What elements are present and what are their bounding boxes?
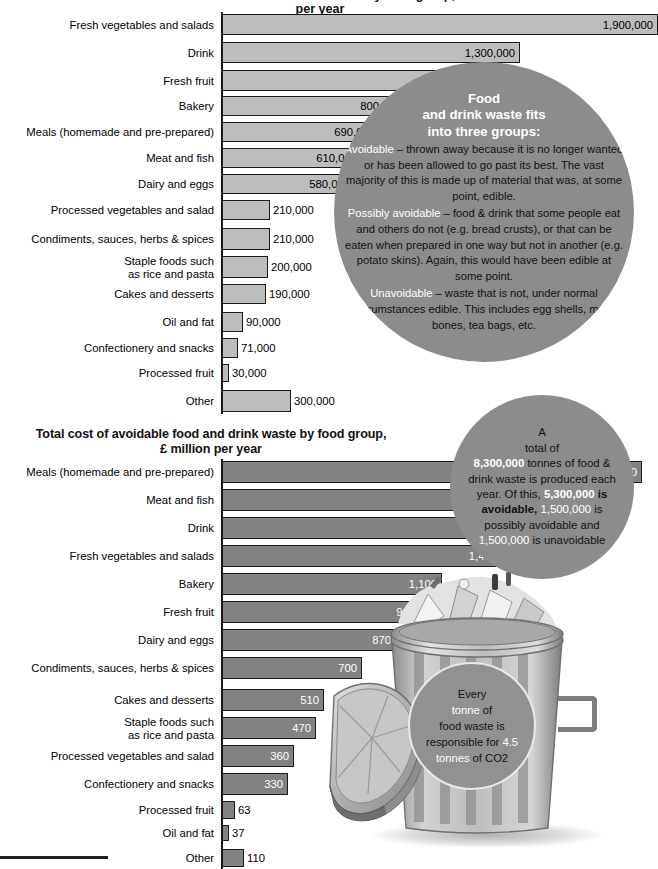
bar-value-label: 63: [238, 804, 251, 816]
bar-value-label: 210,000: [273, 204, 314, 216]
co2-tonnes-line: tonnes of CO2: [426, 750, 518, 766]
category-label: Processed vegetables and salad: [51, 204, 214, 216]
bar-value-label: 470: [292, 722, 311, 734]
category-label: Drink: [188, 47, 214, 59]
category-label: Meat and fish: [146, 152, 214, 164]
category-label: Fresh fruit: [163, 75, 214, 87]
total-body: 8,300,000 tonnes of food & drink waste i…: [460, 456, 624, 548]
co2-value: 4.5: [502, 736, 518, 748]
bar: 210,000: [222, 200, 270, 220]
bar-value-label: 110: [247, 852, 265, 864]
unavoidable-term: Unavoidable: [370, 287, 432, 299]
unavoidable-amount-label: is unavoidable: [529, 534, 605, 546]
total-line-b: total of: [460, 441, 624, 456]
co2-of-2: of CO2: [470, 752, 509, 764]
bar: 360: [222, 745, 294, 767]
cost-chart-title-line1: Total cost of avoidable food and drink w…: [36, 427, 387, 441]
category-label: Fresh fruit: [163, 606, 214, 618]
bar: 330: [222, 773, 288, 795]
bar: 1,300,000: [222, 42, 520, 63]
category-label: Processed fruit: [139, 804, 214, 816]
bar: 200,000: [222, 256, 268, 278]
bar-value-label: 360: [270, 750, 289, 762]
co2-tonne-word: tonne: [452, 704, 480, 716]
bar: 210,000: [222, 228, 270, 250]
total-tonnes-value: 8,300,000: [474, 457, 525, 469]
category-label: Bakery: [179, 578, 214, 590]
category-label: Processed vegetables and salad: [51, 750, 214, 762]
bar-value-label: 1,900,000: [603, 19, 653, 31]
bar-value-label: 210,000: [273, 233, 314, 245]
category-label: Meals (homemade and pre-prepared): [26, 126, 214, 138]
bar: 470: [222, 717, 316, 739]
bar: 37: [222, 825, 229, 841]
groups-unavoidable-paragraph: Unavoidable – waste that is not, under n…: [344, 286, 624, 333]
category-label: Meals (homemade and pre-prepared): [26, 466, 214, 478]
possibly-amount-value: 1,500,000: [540, 503, 591, 515]
groups-heading-line2: and drink waste fits: [344, 107, 624, 123]
category-label: Condiments, sauces, herbs & spices: [31, 233, 214, 245]
possibly-avoidable-term: Possibly avoidable: [348, 207, 441, 219]
category-label: Staple foods such as rice and pasta: [124, 255, 214, 280]
bar: 1,400: [222, 545, 502, 567]
bar-value-label: 510: [300, 694, 319, 706]
bar: 110: [222, 849, 244, 867]
avoidable-amount-value: 5,300,000: [544, 488, 595, 500]
bar: 90,000: [222, 312, 243, 332]
category-label: Fresh vegetables and salads: [70, 550, 214, 562]
bar-value-label: 30,000: [232, 367, 267, 379]
unavoidable-amount-value: 1,500,000: [479, 534, 530, 546]
total-waste-callout: A total of 8,300,000 tonnes of food & dr…: [450, 395, 634, 579]
bar: 190,000: [222, 284, 266, 304]
footer-rule: [0, 856, 108, 859]
waste-groups-callout: Food and drink waste fits into three gro…: [334, 62, 634, 362]
groups-heading-line3: into three groups:: [344, 124, 624, 140]
bar: 1,900,000: [222, 14, 658, 35]
category-label: Other: [186, 852, 214, 864]
bar-value-label: 71,000: [241, 342, 276, 354]
groups-possibly-paragraph: Possibly avoidable – food & drink that s…: [344, 206, 624, 284]
category-label: Fresh vegetables and salads: [70, 19, 214, 31]
category-label: Staple foods such as rice and pasta: [124, 716, 214, 741]
avoidable-term: Avoidable: [345, 143, 394, 155]
bar-value-label: 300,000: [294, 395, 335, 407]
groups-avoidable-paragraph: Avoidable – thrown away because it is no…: [344, 142, 624, 204]
bar: 71,000: [222, 338, 238, 358]
category-label: Cakes and desserts: [114, 694, 214, 706]
co2-of-1: of: [480, 704, 492, 716]
category-label: Confectionery and snacks: [84, 342, 214, 354]
bar-value-label: 330: [264, 778, 283, 790]
bar: 30,000: [222, 364, 229, 382]
category-label: Oil and fat: [163, 316, 215, 328]
category-label: Cakes and desserts: [114, 288, 214, 300]
co2-responsible-line: responsible for 4.5: [426, 734, 518, 750]
bar-value-label: 190,000: [269, 288, 310, 300]
co2-food-waste-line: food waste is: [426, 718, 518, 734]
co2-tonnes-word: tonnes: [436, 752, 470, 764]
bar: 63: [222, 801, 235, 819]
category-label: Drink: [188, 522, 214, 534]
category-label: Oil and fat: [163, 827, 215, 839]
category-label: Dairy and eggs: [138, 634, 214, 646]
bar: 510: [222, 689, 324, 711]
co2-callout: Every tonne of food waste is responsible…: [408, 662, 536, 790]
bar-value-label: 37: [232, 827, 245, 839]
co2-every: Every: [426, 686, 518, 702]
bar-value-label: 1,300,000: [465, 47, 515, 59]
bar: 300,000: [222, 390, 291, 412]
total-line-a: A: [460, 425, 624, 440]
category-label: Condiments, sauces, herbs & spices: [31, 662, 214, 674]
cost-chart-title: Total cost of avoidable food and drink w…: [6, 427, 416, 458]
cost-chart-title-line2: £ million per year: [160, 442, 262, 456]
bar-value-label: 90,000: [246, 316, 281, 328]
category-label: Confectionery and snacks: [84, 778, 214, 790]
category-label: Bakery: [179, 100, 214, 112]
bar-value-label: 200,000: [271, 261, 312, 273]
co2-tonne-line: tonne of: [426, 702, 518, 718]
category-label: Processed fruit: [139, 367, 214, 379]
groups-heading-line1: Food: [344, 91, 624, 107]
category-label: Meat and fish: [146, 494, 214, 506]
category-label: Other: [186, 395, 214, 407]
co2-responsible-text: responsible for: [426, 736, 503, 748]
